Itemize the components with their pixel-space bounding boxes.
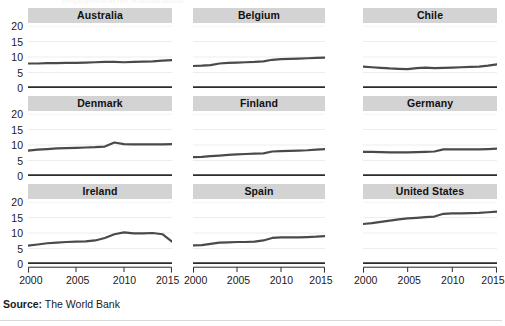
x-tick-2015: 2015 bbox=[309, 275, 332, 286]
plot-area-ireland bbox=[28, 202, 172, 264]
x-tick-labels-2: 2000 2005 2010 2015 bbox=[193, 273, 325, 287]
x-tick-2015: 2015 bbox=[156, 275, 179, 286]
source-value: The World Bank bbox=[42, 298, 120, 310]
panel-title-band-denmark: Denmark bbox=[28, 96, 172, 111]
y-tick-10: 10 bbox=[11, 140, 23, 151]
plot-area-united-states bbox=[363, 202, 497, 264]
panel-germany: Germany bbox=[363, 96, 497, 182]
panel-chile: Chile bbox=[363, 8, 497, 94]
panel-title-chile: Chile bbox=[417, 10, 443, 21]
panel-title-band-ireland: Ireland bbox=[28, 184, 172, 199]
panel-title-united-states: United States bbox=[396, 186, 464, 197]
x-tick-2005: 2005 bbox=[398, 275, 421, 286]
bottom-divider bbox=[0, 320, 502, 321]
panel-title-band-australia: Australia bbox=[28, 8, 172, 23]
panel-title-australia: Australia bbox=[77, 10, 123, 21]
series-svg-chile bbox=[363, 26, 497, 88]
plot-area-chile bbox=[363, 26, 497, 88]
series-svg-ireland bbox=[28, 202, 172, 264]
panel-title-band-united-states: United States bbox=[363, 184, 497, 199]
panel-title-finland: Finland bbox=[240, 98, 278, 109]
x-tick-labels-3: 2000 2005 2010 2015 bbox=[363, 273, 497, 287]
panel-title-band-chile: Chile bbox=[363, 8, 497, 23]
panel-title-band-finland: Finland bbox=[193, 96, 325, 111]
panel-denmark: Denmark bbox=[28, 96, 172, 182]
x-axis-ticks-3 bbox=[363, 266, 497, 273]
x-tick-2005: 2005 bbox=[227, 275, 250, 286]
x-tick-2005: 2005 bbox=[66, 275, 89, 286]
y-tick-0: 0 bbox=[17, 83, 23, 94]
plot-area-germany bbox=[363, 114, 497, 176]
panel-title-germany: Germany bbox=[407, 98, 453, 109]
panel-belgium: Belgium bbox=[193, 8, 325, 94]
series-svg-belgium bbox=[193, 26, 325, 88]
panel-title-band-belgium: Belgium bbox=[193, 8, 325, 23]
x-tick-2010: 2010 bbox=[113, 275, 136, 286]
x-tick-2010: 2010 bbox=[270, 275, 293, 286]
panel-row-2: 20 15 10 5 0 Denmark Finland bbox=[0, 96, 502, 182]
y-axis-labels-row-3: 20 15 10 5 0 bbox=[0, 202, 26, 264]
panel-title-band-germany: Germany bbox=[363, 96, 497, 111]
y-axis-labels-row-1: 20 15 10 5 0 bbox=[0, 26, 26, 88]
series-svg-united-states bbox=[363, 202, 497, 264]
y-tick-5: 5 bbox=[17, 67, 23, 78]
y-tick-20: 20 bbox=[11, 197, 23, 208]
series-svg-spain bbox=[193, 202, 325, 264]
x-axis-ticks-1 bbox=[28, 266, 172, 273]
x-tick-labels-1: 2000 2005 2010 2015 bbox=[28, 273, 172, 287]
panel-spain: Spain bbox=[193, 184, 325, 270]
source-label: Source: bbox=[3, 298, 42, 310]
y-axis-labels-row-2: 20 15 10 5 0 bbox=[0, 114, 26, 176]
y-tick-0: 0 bbox=[17, 171, 23, 182]
y-tick-20: 20 bbox=[11, 21, 23, 32]
clipped-chart-title: Employment in the financial sector bbox=[62, 0, 322, 5]
panel-row-3: 20 15 10 5 0 Ireland Spain bbox=[0, 184, 502, 270]
source-note: Source: The World Bank bbox=[3, 298, 120, 310]
panel-ireland: Ireland bbox=[28, 184, 172, 270]
y-tick-10: 10 bbox=[11, 228, 23, 239]
x-axis-column-2: 2000 2005 2010 2015 bbox=[193, 266, 325, 288]
y-tick-15: 15 bbox=[11, 212, 23, 223]
y-tick-0: 0 bbox=[17, 259, 23, 270]
y-tick-15: 15 bbox=[11, 124, 23, 135]
panel-finland: Finland bbox=[193, 96, 325, 182]
series-svg-germany bbox=[363, 114, 497, 176]
x-tick-2015: 2015 bbox=[481, 275, 504, 286]
panel-united-states: United States bbox=[363, 184, 497, 270]
y-tick-5: 5 bbox=[17, 155, 23, 166]
x-axis-ticks-2 bbox=[193, 266, 325, 273]
plot-area-spain bbox=[193, 202, 325, 264]
y-tick-20: 20 bbox=[11, 109, 23, 120]
y-tick-5: 5 bbox=[17, 243, 23, 254]
series-svg-finland bbox=[193, 114, 325, 176]
plot-area-australia bbox=[28, 26, 172, 88]
panel-title-belgium: Belgium bbox=[238, 10, 280, 21]
panel-row-1: 20 15 10 5 0 Australia Belgium bbox=[0, 8, 502, 94]
plot-area-finland bbox=[193, 114, 325, 176]
x-tick-2010: 2010 bbox=[441, 275, 464, 286]
x-axis-column-1: 2000 2005 2010 2015 bbox=[28, 266, 172, 288]
panel-australia: Australia bbox=[28, 8, 172, 94]
panel-title-band-spain: Spain bbox=[193, 184, 325, 199]
series-svg-australia bbox=[28, 26, 172, 88]
panel-title-spain: Spain bbox=[244, 186, 273, 197]
panel-title-ireland: Ireland bbox=[82, 186, 117, 197]
plot-area-belgium bbox=[193, 26, 325, 88]
x-tick-2000: 2000 bbox=[354, 275, 377, 286]
plot-area-denmark bbox=[28, 114, 172, 176]
series-svg-denmark bbox=[28, 114, 172, 176]
x-tick-2000: 2000 bbox=[19, 275, 42, 286]
panel-title-denmark: Denmark bbox=[77, 98, 123, 109]
x-tick-2000: 2000 bbox=[184, 275, 207, 286]
y-tick-10: 10 bbox=[11, 52, 23, 63]
x-axis-column-3: 2000 2005 2010 2015 bbox=[363, 266, 497, 288]
y-tick-15: 15 bbox=[11, 36, 23, 47]
panel-grid: 20 15 10 5 0 Australia Belgium bbox=[0, 8, 502, 290]
